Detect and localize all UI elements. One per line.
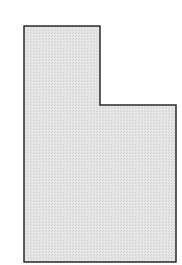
map-canvas [0,0,182,265]
state-outline-utah[interactable] [24,26,176,262]
map-svg [0,0,182,265]
